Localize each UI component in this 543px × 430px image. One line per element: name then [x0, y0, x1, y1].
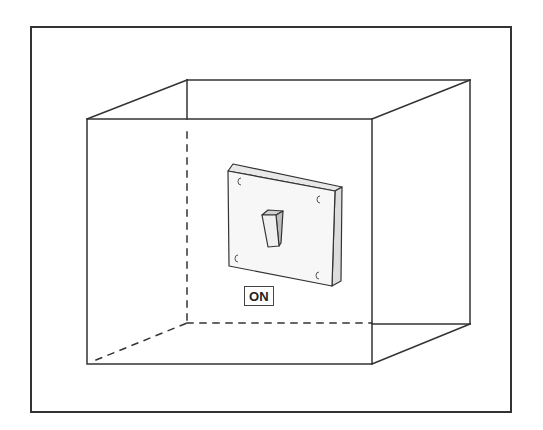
cube-top-right-edge — [372, 80, 470, 119]
switch-state-label: ON — [244, 286, 274, 306]
wall-switch[interactable] — [228, 164, 342, 286]
cube-bottom-right-edge — [372, 324, 470, 364]
cube-top-left-edge — [87, 80, 187, 119]
switch-in-room-diagram — [0, 0, 543, 430]
cube-bottom-left-edge-hidden — [96, 323, 187, 360]
